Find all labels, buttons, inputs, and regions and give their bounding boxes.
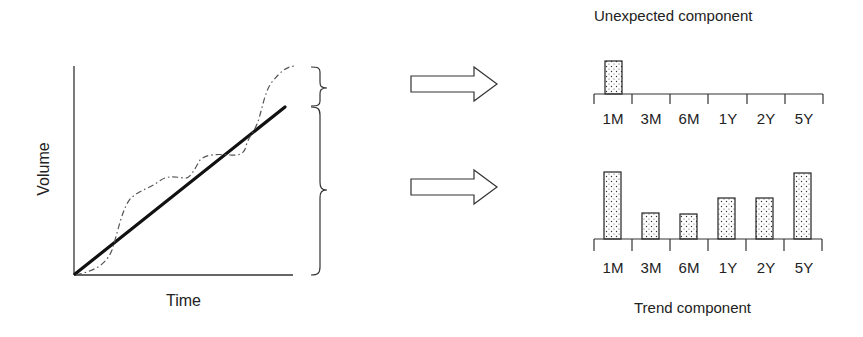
tick-label-6M: 6M <box>670 110 708 127</box>
arrow-to-unexpected-icon <box>411 67 497 101</box>
bar-1Y <box>718 198 735 239</box>
unexpected-bar-chart <box>594 61 823 104</box>
tick-label-1Y: 1Y <box>709 110 747 127</box>
bar-1M <box>605 61 622 94</box>
diagram-canvas <box>0 0 863 337</box>
x-axis-label: Time <box>166 292 201 310</box>
bar-6M <box>680 214 697 239</box>
bar-3M <box>642 213 659 239</box>
ticks <box>594 94 823 104</box>
tick-label-2Y: 2Y <box>747 259 785 276</box>
ticks <box>594 239 822 251</box>
bar-1M <box>604 172 621 239</box>
actual-volume-curve <box>76 66 294 275</box>
tick-label-5Y: 5Y <box>785 259 823 276</box>
trend-title: Trend component <box>634 299 751 316</box>
trend-brace <box>311 107 327 275</box>
tick-label-3M: 3M <box>632 259 670 276</box>
tick-label-5Y: 5Y <box>785 110 823 127</box>
unexpected-title: Unexpected component <box>594 7 752 24</box>
bar-5Y <box>794 173 811 239</box>
tick-label-1M: 1M <box>594 110 632 127</box>
tick-label-1Y: 1Y <box>709 259 747 276</box>
unexpected-brace <box>311 67 327 106</box>
bar-2Y <box>756 198 773 239</box>
tick-label-3M: 3M <box>632 110 670 127</box>
tick-label-1M: 1M <box>594 259 632 276</box>
tick-label-2Y: 2Y <box>747 110 785 127</box>
trend-bar-chart <box>594 172 822 251</box>
arrow-to-trend-icon <box>411 170 497 204</box>
y-axis-label: Volume <box>35 129 53 209</box>
left-chart <box>74 66 294 275</box>
tick-label-6M: 6M <box>670 259 708 276</box>
